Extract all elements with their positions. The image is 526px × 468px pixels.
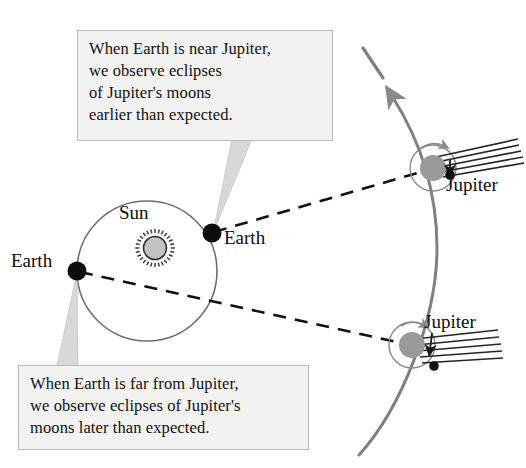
sight-line-far: [80, 272, 410, 345]
jupiter-bottom-planet: [399, 332, 425, 358]
near-callout-line-2: we observe eclipses: [89, 60, 322, 82]
near-callout-line-3: of Jupiter's moons: [89, 82, 322, 104]
far-callout-line-3: moons later than expected.: [30, 417, 298, 439]
jupiter-orbit-arc: [359, 96, 437, 455]
sight-line-near: [214, 169, 431, 232]
diagram-canvas: Sun Earth Earth Jupiter Jupiter When Ear…: [0, 0, 526, 468]
jupiter-bottom-shadow-cone: [415, 330, 503, 363]
jupiter-top-planet: [420, 155, 446, 181]
jupiter-orbit-arc-dash: [363, 48, 383, 78]
sun-symbol: [135, 229, 175, 267]
earth-far-label: Earth: [11, 251, 52, 270]
far-jupiter-callout: When Earth is far from Jupiter, we obser…: [18, 365, 309, 450]
earth-near-label: Earth: [224, 228, 265, 247]
far-callout-leader: [57, 272, 78, 366]
jupiter-orbit-arc-group: [359, 48, 437, 455]
jupiter-bottom-moon-direction-arrow: [430, 333, 432, 350]
earth-far-dot: [68, 262, 87, 281]
near-callout-line-4: earlier than expected.: [89, 104, 322, 126]
jupiter-top-label: Jupiter: [446, 175, 498, 194]
near-jupiter-callout: When Earth is near Jupiter, we observe e…: [77, 30, 333, 141]
sun-disc: [144, 237, 167, 260]
jupiter-bottom-moon: [429, 361, 439, 371]
near-callout-leader: [213, 139, 252, 233]
sun-label: Sun: [119, 203, 149, 222]
near-callout-line-1: When Earth is near Jupiter,: [89, 38, 322, 60]
far-callout-line-2: we observe eclipses of Jupiter's: [30, 395, 298, 417]
jupiter-bottom-label: Jupiter: [424, 312, 476, 331]
earth-near-dot: [203, 224, 222, 243]
far-callout-line-1: When Earth is far from Jupiter,: [30, 373, 298, 395]
